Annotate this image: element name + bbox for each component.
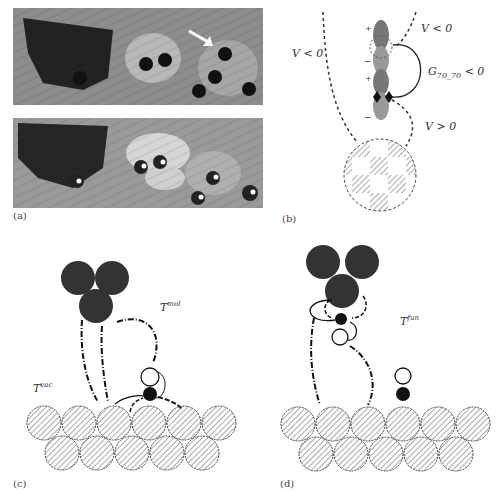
g-symbol: G: [428, 65, 437, 78]
v-left-label: V < 0: [292, 47, 323, 60]
panel-d-label: (d): [280, 478, 294, 489]
v-right-top-label: V < 0: [421, 22, 452, 35]
v-bottom-label: V > 0: [425, 120, 456, 133]
t-vac-label: Tvac: [33, 381, 52, 395]
panel-b-label: (b): [282, 213, 296, 224]
panel-d-diagram: [306, 245, 411, 405]
t-fun-superscript: fun: [407, 314, 419, 322]
t-fun-label: Tfun: [400, 314, 419, 328]
panel-c-surface: [27, 406, 236, 470]
g-label: G70_70 < 0: [428, 65, 484, 80]
t-mol-superscript: mol: [167, 300, 180, 308]
g-subscript: 70_70: [437, 71, 461, 80]
panel-c-label: (c): [13, 478, 26, 489]
charge-minus-2: −: [364, 112, 372, 122]
panel-d-surface: [281, 407, 490, 471]
g-relation: < 0: [461, 65, 484, 78]
charge-minus-1: −: [364, 56, 372, 66]
panel-a: [13, 8, 263, 208]
t-mol-label: Tmol: [160, 300, 180, 314]
t-vac-superscript: vac: [40, 381, 52, 389]
panel-c-diagram: [61, 261, 182, 412]
stm-image-top: [13, 8, 263, 105]
stm-image-bottom: [13, 118, 263, 208]
charge-plus-1: +: [365, 24, 372, 33]
stm-images: [13, 8, 263, 208]
charge-plus-2: +: [365, 74, 372, 83]
panel-a-label: (a): [13, 210, 27, 221]
